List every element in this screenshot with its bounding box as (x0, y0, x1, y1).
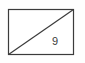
diagonal-length-label: 9 (52, 35, 58, 47)
geometry-diagram: 9 (0, 0, 85, 63)
figure-canvas: 9 (0, 0, 85, 63)
